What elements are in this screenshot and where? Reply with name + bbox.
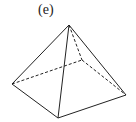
hidden-edge-back-right (82, 60, 126, 95)
edge-apex-left (12, 25, 69, 84)
hidden-edge-apex-back (69, 25, 82, 60)
edge-apex-front (58, 25, 69, 118)
edge-left-front (12, 84, 58, 118)
edge-front-right (58, 95, 126, 118)
hidden-edge-left-back (12, 60, 82, 84)
edge-apex-right (69, 25, 126, 95)
pyramid-diagram (0, 0, 136, 122)
